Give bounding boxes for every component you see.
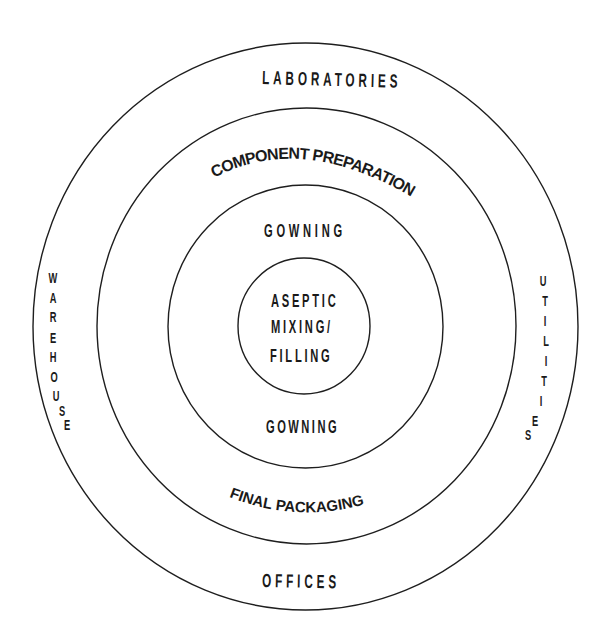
warehouse-letter: E xyxy=(64,417,70,434)
warehouse-letter: A xyxy=(50,290,57,307)
utilities-letter: L xyxy=(543,333,549,350)
label-component-preparation-arc: COMPONENT PREPARATION xyxy=(208,145,420,201)
label-aseptic: ASEPTIC xyxy=(271,290,338,310)
label-final-packaging-arc: FINAL PACKAGING xyxy=(228,484,367,516)
label-offices: OFFICES xyxy=(262,570,340,592)
warehouse-letter: H xyxy=(50,349,57,366)
label-mixing: MIXING/ xyxy=(271,316,333,336)
utilities-letter: T xyxy=(541,373,547,390)
utilities-letter: I xyxy=(544,313,547,330)
utilities-letter: S xyxy=(525,427,531,444)
label-warehouse: W A R E H O U S E xyxy=(49,270,70,434)
warehouse-letter: W xyxy=(49,270,58,287)
label-final-packaging: FINAL PACKAGING xyxy=(228,484,367,516)
utilities-letter: T xyxy=(542,293,548,310)
utilities-letter: E xyxy=(532,413,538,430)
warehouse-letter: R xyxy=(50,309,57,326)
utilities-letter: I xyxy=(540,393,543,410)
label-gowning-top: GOWNING xyxy=(264,220,346,240)
label-filling: FILLING xyxy=(270,345,332,365)
warehouse-letter: O xyxy=(50,369,57,386)
label-utilities: U T I L I T I E S xyxy=(525,273,549,444)
label-laboratories: LABORATORIES xyxy=(262,67,402,91)
label-component-preparation: COMPONENT PREPARATION xyxy=(208,145,420,201)
utilities-letter: I xyxy=(545,353,548,370)
facility-zoning-diagram: LABORATORIES OFFICES W A R E H O U S E U… xyxy=(0,0,600,634)
warehouse-letter: E xyxy=(50,330,56,347)
label-gowning-bottom: GOWNING xyxy=(266,416,339,436)
utilities-letter: U xyxy=(540,273,547,290)
